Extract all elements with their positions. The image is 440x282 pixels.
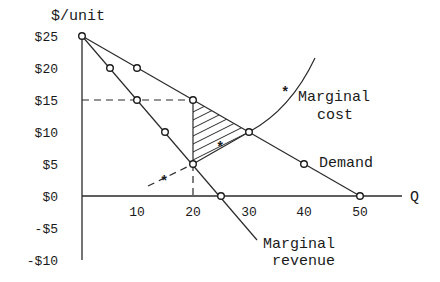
x-tick: 20	[185, 205, 201, 220]
x-tick: 10	[129, 205, 145, 220]
marginal-revenue-label: revenue	[272, 253, 335, 270]
marginal-revenue-label: Marginal	[263, 236, 335, 253]
y-tick: $25	[35, 30, 58, 45]
star-marker: *	[281, 85, 289, 101]
data-point	[301, 161, 308, 168]
x-tick: 50	[352, 205, 368, 220]
y-tick: $20	[35, 62, 58, 77]
data-point	[79, 33, 86, 40]
data-point	[190, 161, 197, 168]
y-tick: $10	[35, 126, 58, 141]
y-tick: $5	[42, 158, 58, 173]
data-point	[357, 193, 364, 200]
y-tick: -$10	[27, 254, 58, 269]
data-point	[107, 65, 114, 72]
x-tick: 40	[296, 205, 312, 220]
data-point	[218, 193, 225, 200]
x-tick-labels: 10 20 30 40 50	[129, 205, 368, 220]
data-point	[246, 129, 253, 136]
y-tick: $15	[35, 94, 58, 109]
y-axis-title: $/unit	[51, 8, 105, 25]
y-tick: -$5	[35, 222, 58, 237]
data-point	[190, 97, 197, 104]
demand-label: Demand	[319, 155, 373, 172]
marginal-cost-dashed-segment	[148, 164, 193, 186]
data-point	[134, 65, 141, 72]
star-marker: *	[160, 174, 168, 190]
x-axis-title: Q	[410, 189, 419, 206]
x-tick: 30	[241, 205, 257, 220]
marginal-cost-label: cost	[317, 107, 353, 124]
y-tick-labels: $25 $20 $15 $10 $5 $0 -$5 -$10	[27, 30, 58, 269]
data-point	[162, 129, 169, 136]
y-tick: $0	[42, 190, 58, 205]
data-point	[134, 97, 141, 104]
monopoly-pricing-diagram: $/unit $25 $20 $15 $10 $5 $0 -$5 -$10 10…	[0, 0, 440, 282]
marginal-cost-label: Marginal	[298, 89, 370, 106]
star-marker: *	[216, 140, 224, 156]
